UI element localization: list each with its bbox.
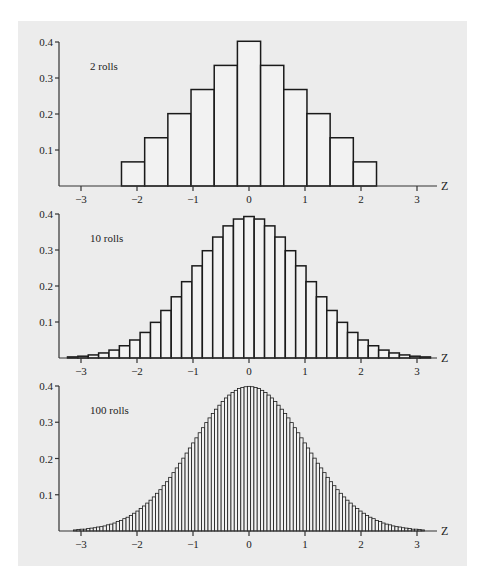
- histogram-bar: [130, 340, 140, 358]
- histogram-bar: [103, 526, 106, 531]
- histogram-bar: [150, 322, 160, 358]
- histogram-bar: [214, 65, 237, 186]
- x-axis-label: Z: [441, 179, 448, 193]
- histogram-bar: [221, 402, 224, 531]
- histogram-bar: [169, 477, 172, 531]
- x-tick-label: −1: [187, 193, 199, 205]
- x-tick-label: −2: [131, 365, 143, 377]
- histogram-bar: [109, 350, 119, 358]
- x-tick-label: 1: [302, 193, 308, 205]
- histogram-bar: [316, 297, 326, 358]
- histogram-bar: [233, 219, 243, 358]
- histogram-bar: [116, 522, 119, 531]
- histogram-bar: [284, 90, 307, 186]
- histogram-bar: [365, 515, 368, 531]
- histogram-bar: [254, 387, 257, 531]
- histogram-bar: [395, 527, 398, 531]
- histogram-bar: [388, 525, 391, 531]
- x-tick-label: −3: [75, 193, 87, 205]
- histogram-bar: [205, 423, 208, 531]
- x-tick-label: 1: [302, 538, 308, 550]
- x-tick-label: 2: [358, 193, 364, 205]
- histogram-bar: [211, 414, 214, 531]
- histogram-bar: [306, 282, 316, 358]
- histogram-bar: [277, 405, 280, 531]
- histogram-bar: [356, 509, 359, 531]
- x-tick-label: 0: [246, 193, 252, 205]
- histogram-bar: [270, 398, 273, 531]
- histogram-bar: [202, 251, 212, 358]
- histogram-bar: [156, 493, 159, 531]
- x-tick-label: 1: [302, 365, 308, 377]
- histogram-bar: [126, 517, 129, 531]
- histogram-bar: [139, 509, 142, 531]
- bars: [121, 41, 376, 186]
- histogram-bar: [303, 443, 306, 531]
- histogram-bar: [348, 332, 358, 358]
- histogram-bar: [297, 433, 300, 531]
- histogram-bar: [296, 266, 306, 358]
- histogram-bar: [140, 332, 150, 358]
- histogram-bar: [241, 387, 244, 531]
- histogram-bar: [368, 346, 378, 358]
- histogram-bar: [123, 519, 126, 531]
- histogram-bar: [113, 523, 116, 531]
- histogram-bar: [224, 398, 227, 531]
- y-tick-label: 0.1: [39, 489, 53, 501]
- histogram-bar: [198, 433, 201, 531]
- histogram-bar: [195, 438, 198, 531]
- histogram-bar: [300, 438, 303, 531]
- histogram-bar: [264, 393, 267, 531]
- histogram-bar: [323, 473, 326, 531]
- histogram-bar: [238, 389, 241, 531]
- histogram-bar: [244, 387, 247, 531]
- histogram-bar: [275, 237, 285, 358]
- histogram-bar: [100, 527, 103, 531]
- histogram-bar: [244, 217, 254, 358]
- histogram-bar: [359, 511, 362, 531]
- histogram-bar: [110, 524, 113, 531]
- histogram-bar: [133, 513, 136, 531]
- x-tick-label: 3: [414, 193, 420, 205]
- histogram-bar: [375, 520, 378, 531]
- histogram-bar: [316, 463, 319, 531]
- y-tick-label: 0.2: [39, 108, 53, 120]
- histogram-bar: [129, 515, 132, 531]
- histogram-10-rolls: −3−2−101230.10.20.30.4Z10 rolls: [39, 208, 448, 377]
- histogram-bar: [171, 297, 181, 358]
- histogram-bar: [280, 409, 283, 531]
- histogram-bar: [159, 490, 162, 531]
- histogram-bar: [119, 520, 122, 531]
- histogram-bar: [215, 409, 218, 531]
- histogram-bar: [185, 453, 188, 531]
- histogram-bar: [192, 266, 202, 358]
- histogram-2-rolls: −3−2−101230.10.20.30.4Z2 rolls: [39, 36, 448, 205]
- histogram-bar: [165, 482, 168, 531]
- histogram-bar: [145, 138, 168, 186]
- y-tick-label: 0.4: [39, 36, 53, 48]
- histogram-bar: [283, 414, 286, 531]
- x-tick-label: 3: [414, 538, 420, 550]
- x-tick-label: −3: [75, 538, 87, 550]
- histogram-bar: [237, 41, 260, 186]
- histogram-bar: [152, 497, 155, 531]
- histogram-bar: [337, 322, 347, 358]
- histogram-bar: [389, 353, 399, 358]
- histogram-bar: [182, 282, 192, 358]
- x-tick-label: −1: [187, 365, 199, 377]
- x-tick-label: 0: [246, 365, 252, 377]
- histogram-bar: [228, 395, 231, 531]
- y-tick-label: 0.1: [39, 144, 53, 156]
- x-tick-label: −2: [131, 538, 143, 550]
- histogram-bar: [182, 458, 185, 531]
- histogram-bar: [319, 468, 322, 531]
- x-tick-label: 2: [358, 365, 364, 377]
- histogram-bar: [136, 511, 139, 531]
- histogram-bar: [261, 65, 284, 186]
- x-tick-label: −2: [131, 193, 143, 205]
- y-tick-label: 0.3: [39, 72, 53, 84]
- histogram-bar: [247, 386, 250, 531]
- histogram-bar: [369, 517, 372, 531]
- histogram-bar: [353, 162, 376, 186]
- histogram-bar: [201, 428, 204, 531]
